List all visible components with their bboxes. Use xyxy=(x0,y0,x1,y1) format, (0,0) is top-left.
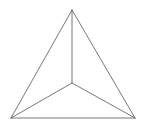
pyramid-figure-svg xyxy=(0,0,143,126)
edge-apex-to-bottom-right xyxy=(72,10,135,118)
edge-center-to-bottom-left xyxy=(11,83,72,118)
edge-apex-to-bottom-left xyxy=(11,10,72,118)
pyramid-diagram xyxy=(0,0,143,126)
edge-center-to-bottom-right xyxy=(72,83,135,118)
